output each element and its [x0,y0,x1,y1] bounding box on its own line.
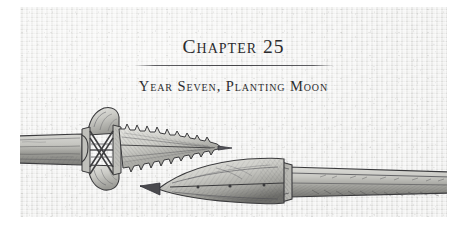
harpoon-bone-wings [88,107,119,190]
chapter-subtitle: Year Seven, Planting Moon [20,77,447,95]
paper-panel: Chapter 25 Year Seven, Planting Moon [20,7,447,217]
spear-socket [278,161,292,203]
page-title: Chapter 25 [20,36,447,58]
chapter-opener-page: Chapter 25 Year Seven, Planting Moon [0,0,475,241]
spear-blade [140,157,290,207]
harpoon-lashing [82,125,121,175]
barbed-harpoon-point [20,107,232,190]
spear-shaft [288,167,447,197]
title-divider-rule [135,65,333,66]
harpoon-shaft [20,134,82,165]
chapter-heading: Chapter 25 Year Seven, Planting Moon [20,36,447,95]
harpoon-barbed-blade [115,124,232,172]
leaf-spearhead [140,157,447,207]
